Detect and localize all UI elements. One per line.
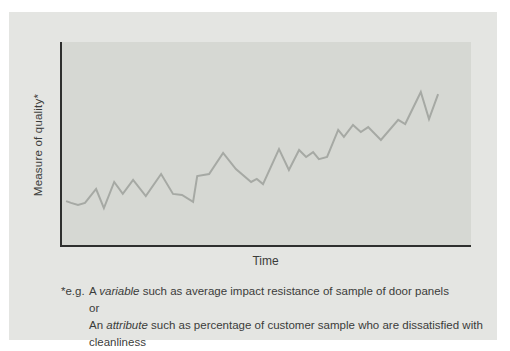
y-axis-label-container: Measure of quality* [25,42,51,247]
trend-polyline [66,92,438,208]
figure-page: Measure of quality* Time *e.g. A variabl… [0,0,510,351]
footnote-line1-italic: variable [99,285,139,297]
footnote: *e.g. A variable such as average impact … [61,283,497,351]
quality-trend-line [62,42,473,247]
footnote-connector: or [89,302,99,314]
footnote-line1-prefix: A [89,285,99,297]
footnote-line2-prefix: An [89,319,106,331]
footnote-line2-italic: attribute [106,319,148,331]
plot-area [60,42,471,247]
footnote-line1-rest: such as average impact resistance of sam… [140,285,449,297]
y-axis-label: Measure of quality* [32,93,44,195]
footnote-line2-rest: such as percentage of customer sample wh… [89,319,483,348]
x-axis-label: Time [60,254,471,268]
figure-panel: Measure of quality* Time *e.g. A variabl… [9,12,497,340]
footnote-line-variable: A variable such as average impact resist… [89,285,449,297]
footnote-lines: A variable such as average impact resist… [89,283,497,351]
footnote-line-attribute: An attribute such as percentage of custo… [89,319,483,348]
footnote-marker: *e.g. [61,283,89,351]
